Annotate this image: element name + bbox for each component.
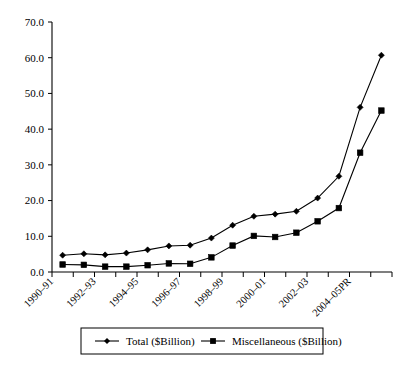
data-point-marker [187, 242, 193, 248]
series-line [63, 111, 382, 267]
legend-item-label: Total ($Billion) [126, 335, 195, 348]
x-tick-label: 2004–05PR [310, 276, 353, 319]
data-point-marker [145, 262, 151, 268]
data-point-marker [357, 104, 363, 110]
data-point-marker [209, 255, 215, 261]
data-point-marker [230, 222, 236, 228]
y-tick-label: 40.0 [25, 123, 45, 135]
diamond-marker-icon [104, 338, 110, 344]
data-point-marker [187, 261, 193, 267]
data-point-marker [378, 52, 384, 58]
chart-container: 0.010.020.030.040.050.060.070.0 1990–911… [0, 0, 405, 369]
data-point-marker [251, 233, 257, 239]
data-point-marker [145, 247, 151, 253]
data-point-marker [294, 230, 300, 236]
data-point-marker [123, 250, 129, 256]
series-line [63, 55, 382, 255]
data-point-marker [208, 235, 214, 241]
x-tick-label: 1996–97 [149, 276, 183, 310]
legend-item-2[interactable]: Miscellaneous ($Billion) [201, 335, 342, 348]
y-tick-label: 20.0 [25, 194, 45, 206]
data-point-marker [124, 264, 130, 270]
data-point-marker [272, 234, 278, 240]
x-tick-label: 1994–95 [107, 276, 141, 310]
y-tick-label: 10.0 [25, 230, 45, 242]
y-tick-label: 50.0 [25, 87, 45, 99]
x-tick-label: 1992–93 [64, 276, 98, 310]
series-2 [60, 108, 384, 270]
legend-item-label: Miscellaneous ($Billion) [232, 335, 342, 348]
chart-legend: Total ($Billion)Miscellaneous ($Billion) [81, 328, 342, 354]
data-point-marker [166, 261, 172, 267]
data-point-marker [336, 205, 342, 211]
y-axis: 0.010.020.030.040.050.060.070.0 [25, 16, 52, 278]
data-point-marker [60, 252, 66, 258]
data-point-marker [102, 264, 108, 270]
x-tick-label: 2002–03 [277, 276, 311, 310]
x-tick-label: 1998–99 [192, 276, 226, 310]
data-point-marker [251, 213, 257, 219]
data-point-marker [315, 218, 321, 224]
data-point-marker [102, 252, 108, 258]
data-point-marker [60, 262, 66, 268]
y-tick-label: 60.0 [25, 52, 45, 64]
data-point-marker [81, 262, 87, 268]
series-group [60, 52, 385, 269]
data-point-marker [293, 208, 299, 214]
series-1 [60, 52, 385, 258]
data-point-marker [357, 150, 363, 156]
line-chart: 0.010.020.030.040.050.060.070.0 1990–911… [0, 0, 405, 369]
y-tick-label: 0.0 [30, 266, 44, 278]
x-tick-label: 2000–01 [234, 276, 268, 310]
y-tick-label: 70.0 [25, 16, 45, 28]
data-point-marker [379, 108, 385, 114]
data-point-marker [230, 243, 236, 249]
data-point-marker [81, 251, 87, 257]
y-tick-label: 30.0 [25, 159, 45, 171]
x-axis: 1990–911992–931994–951996–971998–992000–… [22, 272, 392, 318]
legend-item-1[interactable]: Total ($Billion) [95, 335, 195, 348]
data-point-marker [166, 243, 172, 249]
x-tick-label: 1990–91 [22, 276, 56, 310]
square-marker-icon [210, 338, 216, 344]
data-point-marker [272, 211, 278, 217]
